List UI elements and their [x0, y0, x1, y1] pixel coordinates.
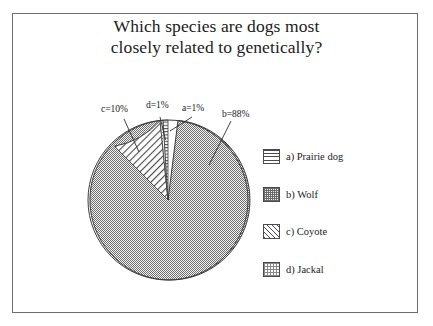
legend-label-coyote: c) Coyote: [286, 226, 327, 237]
legend-item-wolf[interactable]: b) Wolf: [263, 176, 403, 214]
legend-label-jackal: d) Jackal: [286, 264, 324, 275]
legend-item-jackal[interactable]: d) Jackal: [263, 251, 403, 289]
legend-swatch-horizontal-lines-icon: [263, 149, 280, 164]
legend-swatch-diagonal-hatch-icon: [263, 224, 280, 239]
legend-label-wolf: b) Wolf: [286, 189, 318, 200]
legend-item-coyote[interactable]: c) Coyote: [263, 213, 403, 251]
legend-swatch-light-dots-icon: [263, 262, 280, 277]
pie-label-c: c=10%: [101, 104, 128, 114]
pie-label-a: a=1%: [182, 103, 204, 113]
pie-label-b: b=88%: [222, 109, 250, 119]
legend: a) Prairie dog b) Wolf c) Coyote d) Jack…: [263, 138, 403, 288]
legend-swatch-dense-checker-icon: [263, 187, 280, 202]
legend-label-prairie-dog: a) Prairie dog: [286, 151, 343, 162]
pie-label-d: d=1%: [146, 100, 169, 110]
legend-item-prairie-dog[interactable]: a) Prairie dog: [263, 138, 403, 176]
